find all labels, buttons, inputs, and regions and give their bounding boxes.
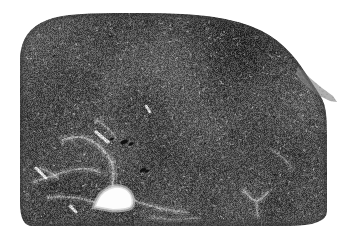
- histology-micrograph-image: [0, 0, 342, 238]
- micrograph-figure: Grayscale histological section of parenc…: [0, 0, 342, 238]
